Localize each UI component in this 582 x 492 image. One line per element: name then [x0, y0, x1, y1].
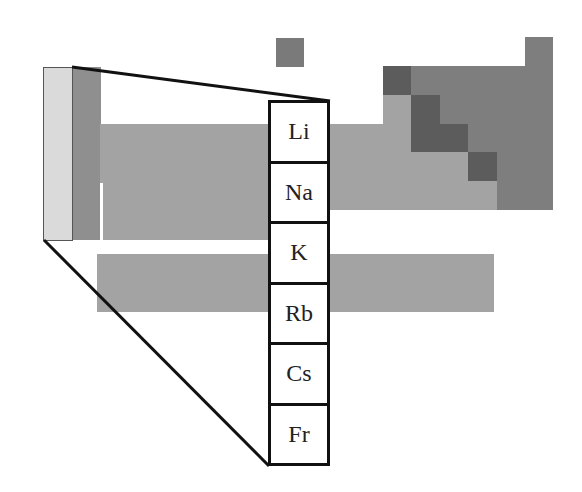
element-cell-cs: Cs — [271, 345, 327, 406]
group-1-expanded-column: Li Na K Rb Cs Fr — [268, 100, 330, 466]
element-cell-na: Na — [271, 164, 327, 225]
element-cell-li: Li — [271, 103, 327, 164]
element-cell-fr: Fr — [271, 406, 327, 464]
element-cell-k: K — [271, 224, 327, 285]
element-cell-rb: Rb — [271, 285, 327, 346]
